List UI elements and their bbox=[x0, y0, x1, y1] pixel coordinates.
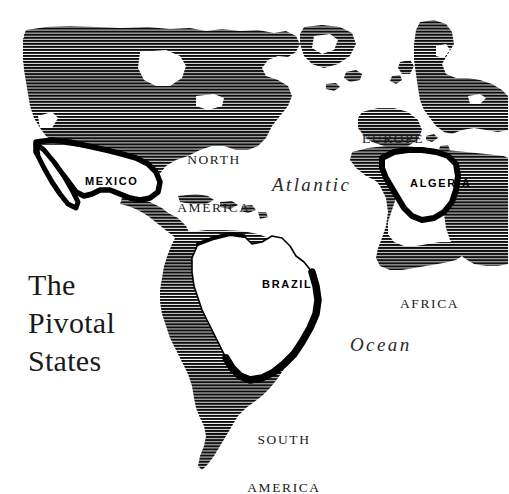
pivotal-states-map-figure: The Pivotal States NORTH AMERICA SOUTH A… bbox=[0, 0, 509, 494]
pivotal-state-algeria[interactable] bbox=[382, 149, 458, 220]
landmass-greenland bbox=[300, 25, 362, 91]
title-line-3: States bbox=[28, 342, 115, 380]
title-line-2: Pivotal bbox=[28, 304, 115, 342]
world-map-graphic bbox=[0, 0, 509, 494]
figure-title: The Pivotal States bbox=[28, 266, 115, 380]
title-line-1: The bbox=[28, 266, 115, 304]
landmass-northern-europe bbox=[358, 20, 508, 152]
